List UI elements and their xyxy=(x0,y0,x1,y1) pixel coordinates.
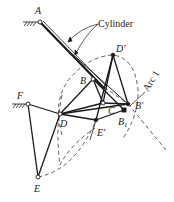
mechanism-diagram: A Cylinder D' B C B' B1 F D E' E Arc 1 xyxy=(0,0,174,202)
joint-e xyxy=(36,175,40,179)
ground-hatch-a xyxy=(23,22,40,26)
joint-c xyxy=(101,101,105,105)
ground-hatch-f xyxy=(12,104,28,108)
joint-b xyxy=(91,77,95,81)
joint-e-prime xyxy=(94,118,98,122)
label-c: C xyxy=(108,105,115,116)
joint-f xyxy=(26,102,30,106)
label-f: F xyxy=(16,90,24,101)
joint-b-prime xyxy=(126,102,130,106)
joint-d-prime xyxy=(111,53,115,57)
label-e: E xyxy=(33,183,40,194)
label-cylinder: Cylinder xyxy=(98,18,134,29)
label-b-prime: B' xyxy=(135,100,144,111)
dashed-arcs xyxy=(38,55,166,177)
joint-a xyxy=(38,20,42,24)
label-d-prime: D' xyxy=(115,43,126,54)
label-b: B xyxy=(80,75,86,86)
label-e-prime: E' xyxy=(96,127,106,138)
label-a: A xyxy=(34,5,42,16)
links xyxy=(28,55,128,177)
label-d: D xyxy=(59,118,68,129)
label-b1: B1 xyxy=(118,116,128,129)
joint-d xyxy=(58,112,62,116)
cylinder-leaders xyxy=(68,24,98,55)
label-arc1: Arc 1 xyxy=(140,68,161,93)
joint-b1 xyxy=(122,108,126,112)
